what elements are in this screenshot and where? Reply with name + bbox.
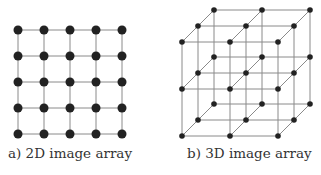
pixel-node (66, 52, 75, 61)
voxel-node (195, 117, 201, 123)
2d-image-array-diagram (14, 26, 127, 139)
pixel-node (92, 26, 101, 35)
voxel-node (179, 133, 185, 139)
voxel-node (291, 117, 297, 123)
voxel-node (243, 117, 249, 123)
pixel-node (66, 104, 75, 113)
pixel-node (92, 104, 101, 113)
voxel-node (227, 133, 233, 139)
voxel-node (307, 101, 313, 107)
3d-image-array-diagram (179, 7, 313, 139)
pixel-node (66, 26, 75, 35)
voxel-node (211, 54, 217, 60)
pixel-node (40, 130, 49, 139)
pixel-node (14, 104, 23, 113)
pixel-node (92, 78, 101, 87)
caption-2d-image-array: a) 2D image array (8, 147, 132, 161)
voxel-node (195, 70, 201, 76)
voxel-node (227, 39, 233, 45)
voxel-node (291, 23, 297, 29)
pixel-node (118, 104, 127, 113)
pixel-node (40, 78, 49, 87)
pixel-node (92, 130, 101, 139)
voxel-node (179, 39, 185, 45)
voxel-node (275, 86, 281, 92)
voxel-node (259, 7, 265, 13)
voxel-node (307, 54, 313, 60)
pixel-node (66, 78, 75, 87)
voxel-node (275, 39, 281, 45)
voxel-node (211, 7, 217, 13)
caption-3d-image-array: b) 3D image array (187, 147, 312, 161)
pixel-node (118, 52, 127, 61)
pixel-node (14, 26, 23, 35)
pixel-node (118, 78, 127, 87)
voxel-node (291, 70, 297, 76)
voxel-node (307, 7, 313, 13)
pixel-node (40, 52, 49, 61)
voxel-node (259, 101, 265, 107)
pixel-node (40, 104, 49, 113)
voxel-node (211, 101, 217, 107)
pixel-node (118, 26, 127, 35)
pixel-node (14, 78, 23, 87)
voxel-node (259, 54, 265, 60)
voxel-node (243, 23, 249, 29)
pixel-node (66, 130, 75, 139)
pixel-node (92, 52, 101, 61)
pixel-node (118, 130, 127, 139)
pixel-node (40, 26, 49, 35)
pixel-node (14, 130, 23, 139)
voxel-node (227, 86, 233, 92)
voxel-node (195, 23, 201, 29)
voxel-node (179, 86, 185, 92)
voxel-node (243, 70, 249, 76)
voxel-node (275, 133, 281, 139)
pixel-node (14, 52, 23, 61)
